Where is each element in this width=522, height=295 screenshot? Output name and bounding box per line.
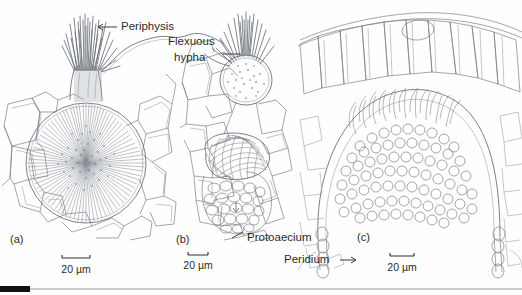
scale-bar-c: 20 µm (387, 253, 417, 273)
flexuous-hypha-label-line2: hypha (174, 51, 206, 63)
panel-letter-b: (b) (176, 233, 189, 245)
scale-bar-a-text: 20 µm (61, 263, 91, 275)
scale-bar-b: 20 µm (183, 252, 213, 271)
footer-rule-light (30, 288, 522, 290)
figure-illustration: Periphysis Flexuous hypha Protoaecium Pe… (0, 0, 522, 295)
flexuous-hypha-label-line1: Flexuous (168, 35, 215, 47)
footer-rule-dark (0, 286, 30, 292)
peridium-label: Peridium (284, 253, 329, 265)
protoaecium-label: Protoaecium (247, 231, 312, 243)
scale-bar-c-text: 20 µm (387, 261, 417, 273)
panel-letter-a: (a) (10, 233, 23, 245)
panel-letter-c: (c) (357, 231, 370, 243)
panel-a-ostiole (70, 66, 102, 102)
periphysis-label: Periphysis (121, 20, 174, 32)
scale-bar-b-text: 20 µm (183, 259, 213, 271)
scale-bar-a: 20 µm (61, 255, 91, 275)
